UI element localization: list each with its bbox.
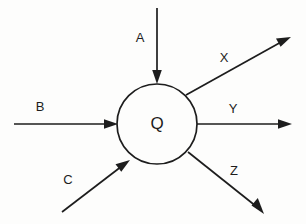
flow-diagram-canvas: Q A B C X Y Z	[0, 0, 306, 224]
node-q-label: Q	[150, 114, 163, 133]
edge-input-b	[14, 119, 118, 129]
edge-output-z-arrowhead	[252, 198, 265, 214]
edge-output-x	[186, 37, 291, 95]
edge-output-x-arrowhead	[276, 37, 291, 47]
edge-input-a	[152, 8, 162, 84]
edge-output-y-arrowhead	[278, 119, 292, 129]
edge-output-y	[197, 119, 292, 129]
edge-label-c: C	[63, 172, 72, 187]
edge-input-a-arrowhead	[152, 70, 162, 84]
edge-label-b: B	[36, 99, 45, 114]
edge-output-z-line	[188, 152, 257, 207]
edge-label-x: X	[220, 50, 229, 65]
edge-input-b-arrowhead	[104, 119, 118, 129]
edge-label-z: Z	[230, 163, 238, 178]
edge-label-a: A	[136, 30, 145, 45]
edge-output-z	[188, 152, 264, 214]
flow-diagram-svg: Q A B C X Y Z	[0, 0, 306, 224]
edge-output-x-line	[186, 41, 283, 95]
edge-label-y: Y	[229, 101, 238, 116]
